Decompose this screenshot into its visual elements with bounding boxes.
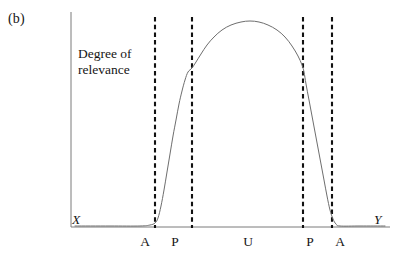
relevance-curve [75, 21, 385, 226]
x-tick-label-4: A [330, 234, 350, 250]
plot-area [0, 0, 403, 256]
x-tick-label-0: A [135, 234, 155, 250]
x-tick-label-1: P [165, 234, 185, 250]
relevance-curve-path [75, 21, 385, 226]
x-tick-label-3: P [300, 234, 320, 250]
axis-lines [71, 12, 390, 227]
x-tick-label-2: U [238, 234, 258, 250]
vertical-dashed-lines [155, 17, 332, 228]
figure-panel: (b) Degree of relevance X Y APUPA [0, 0, 403, 256]
